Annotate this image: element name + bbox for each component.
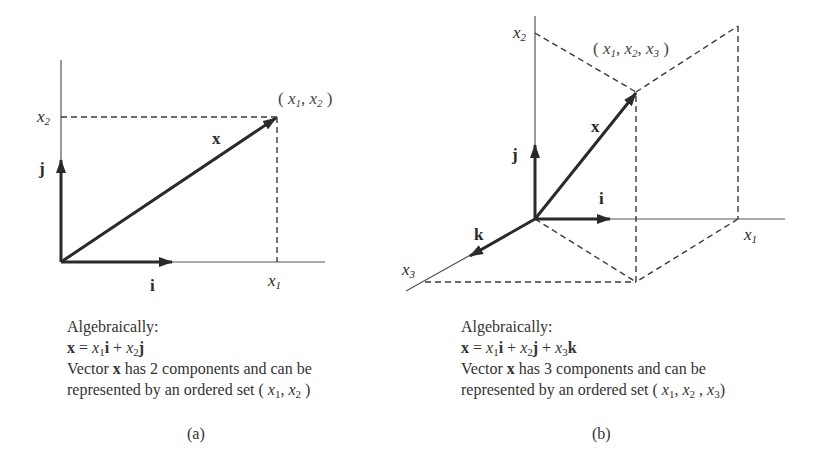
axis-sub: 2 [521, 31, 527, 43]
point-label: ( x1, x2 ) [278, 90, 332, 107]
dashed-origin-to-bottom [535, 219, 636, 282]
eq-lhs: x [67, 339, 75, 356]
dashed-point-to-top-right [636, 26, 738, 92]
unit-vector-i-label: i [150, 277, 155, 294]
caption-line-4: represented by an ordered set ( x1, x2 ,… [461, 379, 725, 400]
vector-x-label: x [212, 130, 221, 147]
text: Vector [67, 360, 113, 377]
eq-sign: = [469, 339, 486, 356]
dashed-x1-to-bottom [636, 219, 738, 282]
text: represented by an ordered set ( [67, 381, 268, 398]
eq-plus: + [109, 339, 126, 356]
eq-plus: + [538, 339, 555, 356]
caption-line-3: Vector x has 2 components and can be [67, 358, 312, 379]
paren: ) [323, 89, 333, 108]
eq-unit: j [139, 339, 144, 356]
axis-var: x [744, 225, 752, 244]
axis-label-x1: x1 [268, 272, 281, 289]
paren: ) [720, 381, 725, 398]
var: x [662, 381, 669, 398]
axis-var: x [513, 23, 521, 42]
axis-var: x [402, 260, 410, 279]
var: x [288, 381, 295, 398]
unit-vector-k-label: k [474, 226, 483, 243]
axis-var: x [268, 271, 276, 290]
text: Vector [461, 360, 507, 377]
vector-x-label: x [591, 118, 600, 135]
axis-label-x1: x1 [744, 226, 757, 243]
unit-vector-j-label: j [512, 146, 518, 163]
axis-label-x2: x2 [37, 108, 50, 125]
var: x [268, 381, 275, 398]
axis-label-x3: x3 [402, 261, 415, 278]
axis-sub: 2 [45, 115, 51, 127]
caption-line-1: Algebraically: [67, 316, 312, 337]
eq-plus: + [503, 339, 520, 356]
axis-sub: 1 [752, 233, 758, 245]
unit-vector-j-label: j [39, 160, 45, 177]
caption-line-3: Vector x has 3 components and can be [461, 358, 725, 379]
caption-a: Algebraically: x = x1i + x2j Vector x ha… [67, 316, 312, 400]
unit-vector-i-label: i [599, 190, 604, 207]
axis-sub: 3 [410, 268, 416, 280]
var: x [646, 39, 654, 58]
var: x [309, 89, 317, 108]
eq-unit: k [568, 339, 577, 356]
vector-x-arrow [535, 93, 636, 219]
text: has 3 components and can be [515, 360, 706, 377]
vector-x-arrow [61, 118, 276, 262]
figure-b-sublabel: (b) [592, 425, 611, 443]
paren: ) [659, 39, 669, 58]
sep: , [638, 39, 647, 58]
caption-equation: x = x1i + x2j [67, 337, 312, 358]
eq-lhs: x [461, 339, 469, 356]
point-label: ( x1, x2, x3 ) [593, 40, 669, 57]
var: x [682, 381, 689, 398]
axis-label-x2: x2 [513, 24, 526, 41]
axis-sub: 1 [276, 279, 282, 291]
text: has 2 components and can be [121, 360, 312, 377]
caption-line-1: Algebraically: [461, 316, 725, 337]
figure-a-sublabel: (a) [187, 425, 205, 443]
caption-b: Algebraically: x = x1i + x2j + x3k Vecto… [461, 316, 725, 400]
caption-equation: x = x1i + x2j + x3k [461, 337, 725, 358]
eq-sign: = [75, 339, 92, 356]
var: x [624, 39, 632, 58]
sep: , [695, 381, 707, 398]
caption-line-4: represented by an ordered set ( x1, x2 ) [67, 379, 312, 400]
paren: ( [278, 89, 288, 108]
bold-x: x [507, 360, 515, 377]
paren: ) [301, 381, 310, 398]
text: represented by an ordered set ( [461, 381, 662, 398]
axis-var: x [37, 107, 45, 126]
paren: ( [593, 39, 603, 58]
bold-x: x [113, 360, 121, 377]
